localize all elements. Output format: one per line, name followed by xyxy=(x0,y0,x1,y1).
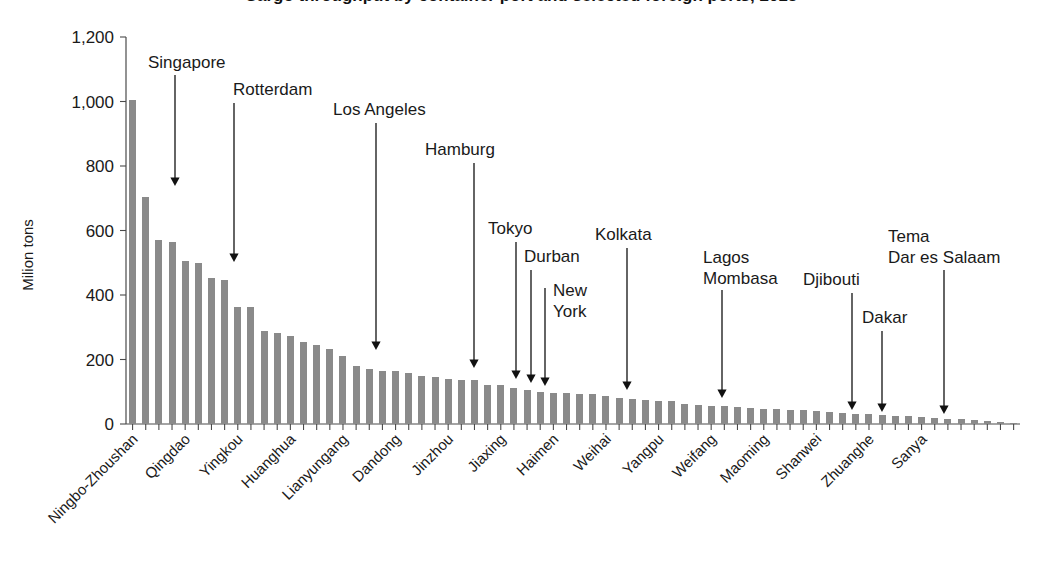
annotation-tokyo: Tokyo xyxy=(488,219,532,379)
bar xyxy=(944,419,951,424)
annotation-label: Singapore xyxy=(148,53,226,72)
bar xyxy=(1010,423,1017,424)
bar xyxy=(589,394,596,424)
bar xyxy=(445,379,452,424)
bar xyxy=(642,400,649,424)
annotation-label: Durban xyxy=(524,247,580,266)
bar xyxy=(234,307,241,424)
annotation-arrow-head xyxy=(371,342,380,351)
bar xyxy=(655,401,662,424)
bar xyxy=(629,399,636,424)
annotation-arrow-head xyxy=(469,360,478,369)
x-tick-label: Sanya xyxy=(888,430,931,473)
annotation-label: York xyxy=(553,302,587,321)
x-tick-label: Weihai xyxy=(570,430,614,474)
bar xyxy=(721,406,728,424)
bar xyxy=(484,385,491,424)
y-tick-label: 400 xyxy=(86,286,114,305)
bar xyxy=(497,385,504,424)
x-tick-label: Yingkou xyxy=(196,430,246,480)
bar xyxy=(918,417,925,424)
annotation-label: Tema xyxy=(888,227,930,246)
bar xyxy=(169,242,176,424)
annotation-arrow-head xyxy=(526,375,535,384)
bar xyxy=(563,393,570,424)
bar xyxy=(418,376,425,424)
annotation-rotterdam: Rotterdam xyxy=(229,80,312,262)
annotation-arrow-head xyxy=(622,382,631,391)
bar xyxy=(379,371,386,424)
bar xyxy=(432,377,439,424)
bar xyxy=(221,280,228,424)
bar xyxy=(155,240,162,424)
bar xyxy=(984,421,991,424)
y-axis: 02004006008001,0001,200 xyxy=(71,28,126,434)
annotation-arrow-head xyxy=(540,378,549,387)
annotation-arrow-head xyxy=(717,390,726,399)
bar xyxy=(313,345,320,424)
annotation-label: New xyxy=(553,281,588,300)
bar xyxy=(747,408,754,424)
annotation-label: Hamburg xyxy=(425,140,495,159)
bar xyxy=(471,380,478,424)
y-tick-label: 600 xyxy=(86,222,114,241)
x-tick-label: Yangpu xyxy=(619,430,667,478)
bar xyxy=(958,419,965,424)
bar xyxy=(287,336,294,424)
bar xyxy=(616,398,623,424)
annotation-label: Kolkata xyxy=(595,225,652,244)
bar xyxy=(326,349,333,424)
bar xyxy=(760,409,767,424)
y-tick-label: 800 xyxy=(86,157,114,176)
annotation-arrow-head xyxy=(170,178,179,187)
bar xyxy=(247,307,254,424)
bar xyxy=(208,278,215,424)
bar xyxy=(339,356,346,424)
annotation-label: Djibouti xyxy=(803,270,860,289)
bar xyxy=(353,366,360,424)
bar xyxy=(129,100,136,424)
bar xyxy=(734,407,741,424)
bar xyxy=(826,412,833,424)
bar-chart-plot: 02004006008001,0001,200 Ningbo-ZhoushanQ… xyxy=(0,0,1042,581)
x-tick-label: Jinzhou xyxy=(408,430,457,479)
bar xyxy=(274,333,281,424)
annotation-label: Mombasa xyxy=(703,269,778,288)
annotation-label: Los Angeles xyxy=(333,100,426,119)
bar xyxy=(537,392,544,424)
y-axis-title: Milion tons xyxy=(19,219,36,291)
bar xyxy=(865,414,872,424)
bar xyxy=(510,388,517,424)
bar xyxy=(971,420,978,424)
bar xyxy=(997,422,1004,424)
bar xyxy=(300,342,307,424)
annotation-dakar: Dakar xyxy=(862,308,908,412)
annotation-new-york: NewYork xyxy=(540,281,587,386)
bar xyxy=(392,371,399,424)
annotation-hamburg: Hamburg xyxy=(425,140,495,368)
bar xyxy=(681,404,688,424)
bar xyxy=(813,411,820,424)
annotation-los-angeles: Los Angeles xyxy=(333,100,426,350)
annotation-lagos-mombasa: LagosMombasa xyxy=(703,248,778,398)
bar xyxy=(602,396,609,424)
y-tick-label: 1,000 xyxy=(71,93,114,112)
x-tick-label: Weifang xyxy=(669,430,720,481)
chart-root: Cargo throughput by container port and s… xyxy=(0,0,1042,581)
bar xyxy=(879,415,886,424)
bar xyxy=(458,380,465,424)
annotation-label: Tokyo xyxy=(488,219,532,238)
bar xyxy=(852,414,859,424)
annotation-arrow-head xyxy=(847,402,856,411)
bar xyxy=(773,409,780,424)
annotation-singapore: Singapore xyxy=(148,53,226,186)
x-tick-label: Haimen xyxy=(513,430,562,479)
bar xyxy=(550,393,557,424)
bar xyxy=(405,373,412,424)
x-tick-label: Ningbo-Zhoushan xyxy=(44,430,140,526)
annotation-arrow-head xyxy=(877,404,886,413)
annotation-arrow-head xyxy=(511,371,520,380)
annotation-label: Dakar xyxy=(862,308,908,327)
bar xyxy=(668,401,675,424)
x-tick-label: Dandong xyxy=(349,430,404,485)
